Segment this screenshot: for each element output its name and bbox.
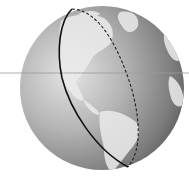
globe-figure bbox=[0, 0, 189, 176]
